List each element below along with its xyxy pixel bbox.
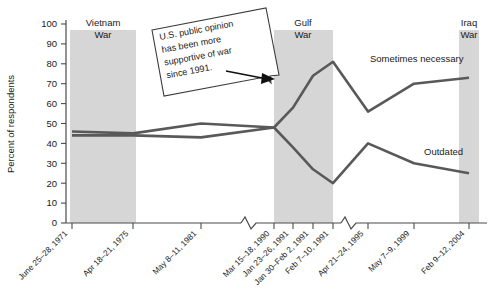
x-tick-label: Apr 18–21, 1975 xyxy=(81,229,130,278)
band-label-iraq-war-line1: Iraq xyxy=(461,17,477,28)
y-tick-label: 90 xyxy=(46,38,57,49)
y-tick-label: 100 xyxy=(41,18,57,29)
series-label-sometimes-necessary: Sometimes necessary xyxy=(370,53,464,64)
x-tick-label: May 7–9, 1999 xyxy=(367,229,412,274)
x-axis-ticks xyxy=(72,223,469,229)
war-opinion-line-chart: Vietnam War Gulf War Iraq War 0 10 20 30… xyxy=(0,0,499,298)
y-axis-title: Percent of respondents xyxy=(5,75,16,173)
shaded-band-rect xyxy=(70,30,136,223)
shaded-region-vietnam-war xyxy=(70,30,136,223)
y-tick-label: 20 xyxy=(46,178,57,189)
y-tick-label: 40 xyxy=(46,138,57,149)
x-tick-label: June 25–28, 1971 xyxy=(17,229,70,282)
y-tick-label: 50 xyxy=(46,118,57,129)
y-tick-label: 30 xyxy=(46,158,57,169)
shaded-band-rect xyxy=(274,30,333,223)
chart-figure: Vietnam War Gulf War Iraq War 0 10 20 30… xyxy=(0,0,499,298)
x-axis-tick-labels: June 25–28, 1971 Apr 18–21, 1975 May 8–1… xyxy=(17,229,467,287)
band-label-gulf-war-line2: War xyxy=(294,29,311,40)
x-tick-label: Feb 9–12, 2004 xyxy=(419,229,466,276)
x-tick-label: May 8–11, 1981 xyxy=(151,229,199,277)
y-tick-label: 10 xyxy=(46,197,57,208)
band-label-gulf-war-line1: Gulf xyxy=(294,17,312,28)
y-axis-tick-labels: 0 10 20 30 40 50 60 70 80 90 100 xyxy=(41,18,57,228)
band-label-vietnam-war-line1: Vietnam xyxy=(86,17,121,28)
band-label-iraq-war-line2: War xyxy=(460,29,477,40)
y-tick-label: 60 xyxy=(46,98,57,109)
annotation-callout: U.S. public opinion has been more suppor… xyxy=(152,8,279,96)
y-axis-ticks xyxy=(61,24,66,223)
y-tick-label: 0 xyxy=(52,217,57,228)
y-tick-label: 80 xyxy=(46,58,57,69)
y-tick-label: 70 xyxy=(46,78,57,89)
series-label-outdated: Outdated xyxy=(424,146,463,157)
band-label-vietnam-war-line2: War xyxy=(94,29,111,40)
shaded-region-gulf-war xyxy=(274,30,333,223)
